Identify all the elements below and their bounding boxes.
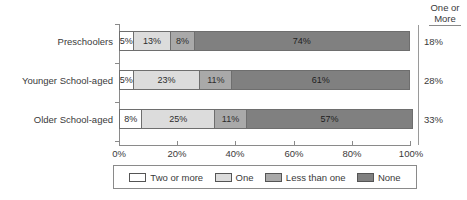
bar-segment-label: 5% — [120, 75, 133, 85]
x-axis-tick — [119, 141, 120, 146]
category-label-preschoolers: Preschoolers — [0, 36, 113, 47]
annotation-column-header: One or More — [423, 2, 467, 26]
bar-segment-one: 23% — [134, 70, 201, 90]
bar-segment-label: 13% — [143, 36, 161, 46]
x-axis-tick-label: 0% — [99, 148, 139, 159]
bar-segment-label: 5% — [120, 36, 133, 46]
x-axis-tick — [410, 141, 411, 146]
bar-segment-none: 57% — [247, 109, 413, 129]
annotation-value-preschoolers: 18% — [424, 36, 464, 47]
bar-segment-label: 11% — [207, 75, 224, 85]
legend-item-label: One — [236, 172, 254, 183]
stacked-bar-chart: One or More 18% 28% 33% Preschoolers You… — [0, 0, 467, 200]
legend-item-two-or-more[interactable]: Two or more — [129, 172, 203, 183]
x-axis-tick-label: 100% — [391, 148, 431, 159]
x-axis-line — [119, 145, 410, 146]
annotation-value-older-school-aged: 33% — [424, 114, 464, 125]
bar-segment-label: 8% — [124, 114, 137, 124]
bar-segment-label: 11% — [222, 114, 239, 124]
x-axis-tick — [352, 141, 353, 146]
legend-swatch-icon — [215, 173, 232, 182]
category-label-younger-school-aged: Younger School-aged — [0, 75, 113, 86]
x-axis-tick — [294, 141, 295, 146]
legend-swatch-icon — [129, 173, 146, 182]
bar-segment-label: 23% — [158, 75, 176, 85]
legend-item-less-than-one[interactable]: Less than one — [265, 172, 346, 183]
bar-segment-label: 74% — [293, 36, 311, 46]
bar-segment-less-than-one: 8% — [171, 31, 194, 51]
bar-segment-label: 61% — [312, 75, 330, 85]
y-axis-tick — [115, 24, 119, 25]
bar-row: 5%23%11%61% — [119, 70, 410, 90]
legend-item-label: None — [378, 172, 401, 183]
bar-segment-none: 74% — [195, 31, 410, 51]
x-axis-tick-label: 40% — [215, 148, 255, 159]
bar-row: 5%13%8%74% — [119, 31, 410, 51]
x-axis-tick-label: 20% — [157, 148, 197, 159]
bar-segment-none: 61% — [232, 70, 410, 90]
y-axis-tick — [115, 63, 119, 64]
x-axis-tick-label: 60% — [274, 148, 314, 159]
bar-segment-one: 25% — [142, 109, 215, 129]
bar-row: 8%25%11%57% — [119, 109, 410, 129]
x-axis-tick — [235, 141, 236, 146]
chart-legend: Two or moreOneLess than oneNone — [113, 165, 417, 189]
y-axis-tick — [115, 102, 119, 103]
annotation-value-younger-school-aged: 28% — [424, 75, 464, 86]
annotation-header-line2: More — [429, 13, 461, 26]
annotation-header-line1: One or — [430, 2, 459, 13]
bar-segment-label: 8% — [176, 36, 189, 46]
x-axis-tick — [177, 141, 178, 146]
annotation-column-divider — [418, 25, 419, 145]
bar-segment-label: 57% — [320, 114, 338, 124]
legend-item-label: Less than one — [286, 172, 346, 183]
bar-segment-less-than-one: 11% — [200, 70, 232, 90]
category-label-older-school-aged: Older School-aged — [0, 114, 113, 125]
legend-item-label: Two or more — [150, 172, 203, 183]
bar-segment-one: 13% — [134, 31, 172, 51]
bar-segment-two-or-more: 5% — [119, 70, 134, 90]
bar-segment-two-or-more: 8% — [119, 109, 142, 129]
legend-item-none[interactable]: None — [357, 172, 401, 183]
bar-segment-less-than-one: 11% — [215, 109, 247, 129]
legend-swatch-icon — [357, 173, 374, 182]
x-axis-tick-label: 80% — [332, 148, 372, 159]
bar-segment-two-or-more: 5% — [119, 31, 134, 51]
legend-item-one[interactable]: One — [215, 172, 254, 183]
legend-swatch-icon — [265, 173, 282, 182]
bar-segment-label: 25% — [169, 114, 187, 124]
